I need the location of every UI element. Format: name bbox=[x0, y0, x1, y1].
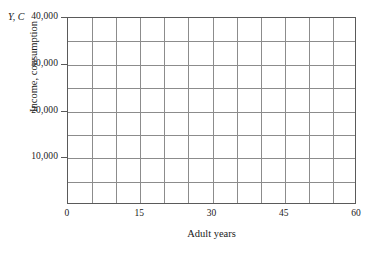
y-axis-symbol-label: Y, C bbox=[8, 11, 24, 22]
gridline-horizontal bbox=[68, 88, 355, 89]
gridline-horizontal bbox=[68, 65, 355, 66]
y-tick-label: 10,000 bbox=[31, 151, 58, 161]
x-tick-label: 45 bbox=[279, 208, 289, 218]
x-tick-label: 60 bbox=[351, 208, 361, 218]
vertical-gridlines bbox=[68, 18, 355, 203]
gridline-vertical bbox=[285, 18, 286, 203]
gridline-vertical bbox=[140, 18, 141, 203]
y-tick-label: 40,000 bbox=[31, 11, 58, 21]
x-axis-title: Adult years bbox=[67, 228, 356, 239]
gridline-horizontal bbox=[68, 182, 355, 183]
gridline-vertical bbox=[164, 18, 165, 203]
gridline-vertical bbox=[92, 18, 93, 203]
gridline-vertical bbox=[116, 18, 117, 203]
gridline-vertical bbox=[188, 18, 189, 203]
gridline-horizontal bbox=[68, 41, 355, 42]
gridline-vertical bbox=[213, 18, 214, 203]
x-tick-label: 15 bbox=[134, 208, 144, 218]
gridline-horizontal bbox=[68, 112, 355, 113]
gridline-horizontal bbox=[68, 158, 355, 159]
plot-area bbox=[67, 17, 356, 204]
gridline-vertical bbox=[309, 18, 310, 203]
gridline-vertical bbox=[333, 18, 334, 203]
gridline-horizontal bbox=[68, 135, 355, 136]
gridline-vertical bbox=[237, 18, 238, 203]
x-tick-label: 0 bbox=[65, 208, 70, 218]
gridline-vertical bbox=[261, 18, 262, 203]
x-tick-label: 30 bbox=[207, 208, 217, 218]
y-tick-label: 20,000 bbox=[31, 105, 58, 115]
y-axis-title: Income, consumption bbox=[28, 0, 39, 162]
y-tick-label: 30,000 bbox=[31, 58, 58, 68]
horizontal-gridlines bbox=[68, 18, 355, 203]
chart-figure: Y, C Income, consumption Adult years 10,… bbox=[0, 0, 382, 256]
